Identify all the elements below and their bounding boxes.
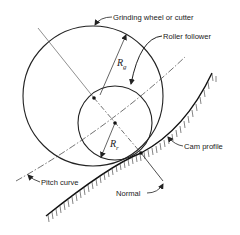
grinding-wheel-label: Grinding wheel or cutter — [113, 13, 194, 22]
wheel-axis-line — [38, 28, 94, 98]
contact-point-dot — [139, 151, 143, 155]
cam-profile-label: Cam profile — [184, 142, 223, 151]
normal-label: Normal — [116, 189, 141, 198]
pitch-curve-leader — [28, 175, 40, 182]
cam-profile-leader — [168, 137, 183, 146]
roller-follower-label: Roller follower — [163, 32, 212, 41]
rr-symbol: Rr — [109, 138, 119, 152]
roller-follower-leader — [131, 36, 162, 84]
grinding-wheel-circle — [23, 26, 163, 166]
cam-diagram: Rg Rr Grinding wheel or cutter Roller fo… — [0, 0, 240, 235]
rg-symbol: Rg — [116, 57, 127, 71]
normal-line — [141, 153, 163, 181]
wheel-center-dot — [92, 96, 96, 100]
normal-leader — [147, 184, 163, 193]
grinding-wheel-leader — [95, 17, 112, 25]
pitch-curve-label: Pitch curve — [41, 178, 79, 187]
